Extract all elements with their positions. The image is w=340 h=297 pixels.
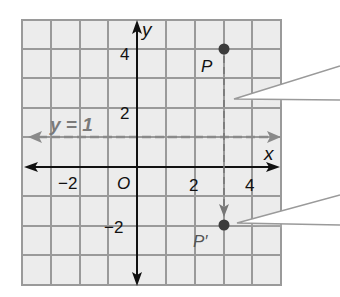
point-P-prime-label: P′ bbox=[193, 232, 208, 251]
line-y-equals-1-label: y = 1 bbox=[49, 114, 93, 135]
y-tick-4: 4 bbox=[120, 45, 129, 64]
y-tick-2: 2 bbox=[120, 104, 129, 123]
point-P bbox=[219, 44, 230, 55]
point-P-prime bbox=[219, 220, 230, 231]
y-tick-neg2: −2 bbox=[104, 218, 123, 237]
origin-label: O bbox=[117, 174, 130, 193]
grid bbox=[22, 20, 281, 285]
x-axis-label: x bbox=[263, 143, 275, 164]
y-axis-label: y bbox=[140, 19, 153, 40]
x-tick-2: 2 bbox=[189, 176, 198, 195]
coordinate-plane-figure: 4 2 −2 −2 2 4 O y x P P′ y = 1 bbox=[0, 0, 340, 297]
x-tick-neg2: −2 bbox=[58, 174, 77, 193]
point-P-label: P bbox=[201, 57, 213, 76]
x-tick-4: 4 bbox=[245, 176, 254, 195]
